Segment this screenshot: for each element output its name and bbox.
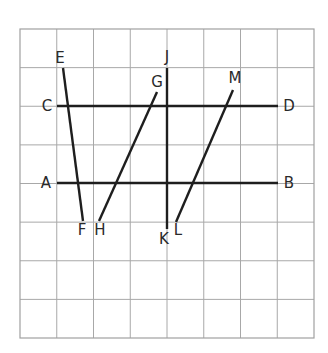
- point-label-k: K: [159, 230, 170, 248]
- point-label-b: B: [284, 174, 294, 192]
- point-label-m: M: [229, 69, 242, 87]
- point-label-e: E: [55, 49, 64, 67]
- grid-diagram: ABCDEFGHJKLM: [0, 0, 328, 353]
- point-label-d: D: [283, 97, 295, 115]
- segment-gh: [99, 92, 157, 221]
- line-segments: [57, 68, 278, 229]
- point-label-g: G: [151, 73, 163, 91]
- point-label-j: J: [164, 48, 169, 66]
- segment-ml: [176, 90, 233, 222]
- point-label-l: L: [174, 221, 183, 239]
- point-label-h: H: [94, 221, 105, 239]
- point-label-a: A: [41, 174, 52, 192]
- point-label-f: F: [78, 221, 87, 239]
- point-label-c: C: [42, 97, 52, 115]
